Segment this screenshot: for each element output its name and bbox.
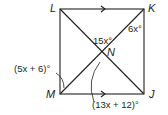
angle-label-15x: 15x° xyxy=(93,36,112,46)
point-label-l: L xyxy=(50,3,56,14)
angle-label-6x: 6x° xyxy=(128,24,142,34)
point-label-j: J xyxy=(149,89,155,100)
square-diagram xyxy=(0,0,168,115)
angle-label-5x-plus-6: (5x + 6)° xyxy=(14,64,50,74)
leader-line-n xyxy=(91,62,100,102)
point-label-k: K xyxy=(148,3,155,14)
angle-label-13x-plus-12: (13x + 12)° xyxy=(92,100,139,110)
point-label-m: M xyxy=(46,89,55,100)
point-label-n: N xyxy=(107,47,115,58)
